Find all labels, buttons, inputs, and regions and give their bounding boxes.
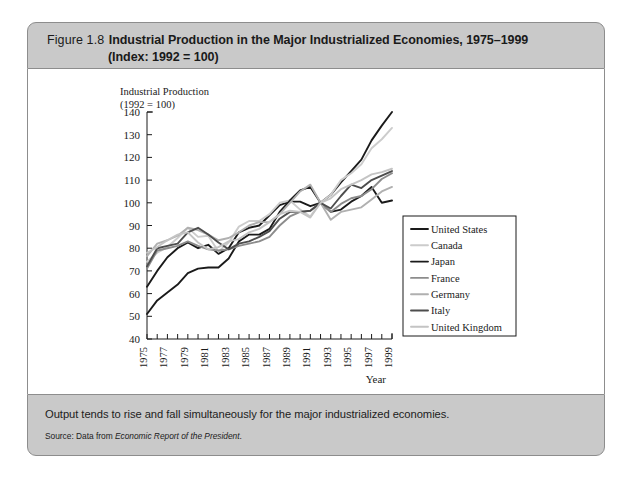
y-axis-title-line1: Industrial Production [120, 86, 210, 97]
legend-label-italy: Italy [431, 305, 451, 316]
y-tick-label: 70 [129, 265, 141, 277]
x-tick-label: 1991 [301, 347, 312, 368]
x-tick-label: 1977 [158, 347, 169, 368]
chart-legend: United StatesCanadaJapanFranceGermanyIta… [403, 216, 516, 336]
x-tick-label: 1981 [199, 347, 210, 368]
legend-label-united-kingdom: United Kingdom [431, 322, 502, 333]
figure-footer-band: Output tends to rise and fall simultaneo… [27, 394, 605, 456]
y-tick-label: 60 [129, 288, 141, 300]
x-tick-label: 1999 [383, 347, 394, 368]
y-tick-label: 110 [124, 174, 141, 186]
axis-frame-path [147, 112, 392, 339]
x-tick-label: 1993 [322, 347, 333, 368]
x-tick-label: 1997 [363, 347, 374, 368]
y-tick-label: 130 [124, 129, 141, 141]
legend-label-germany: Germany [431, 289, 471, 300]
legend-label-canada: Canada [431, 240, 463, 251]
y-tick-label: 50 [129, 310, 141, 322]
legend-label-united-states: United States [431, 224, 487, 235]
figure-source: Source: Data from Economic Report of the… [45, 431, 242, 441]
figure-container: Figure 1.8 Industrial Production in the … [0, 0, 629, 478]
y-tick-label: 80 [129, 242, 141, 254]
y-axis-ticks: 405060708090100110120130140 [124, 106, 153, 345]
x-tick-label: 1983 [220, 347, 231, 368]
data-series-group [147, 112, 392, 314]
y-tick-label: 40 [129, 333, 141, 345]
series-line-japan [147, 187, 392, 314]
x-tick-label: 1987 [261, 347, 272, 368]
x-tick-label: 1985 [240, 347, 251, 368]
x-axis-title: Year [366, 373, 387, 385]
source-suffix: . [240, 431, 242, 441]
series-line-canada [147, 128, 392, 262]
source-title: Economic Report of the President [115, 431, 240, 441]
x-tick-label: 1995 [342, 347, 353, 368]
x-tick-label: 1975 [138, 347, 149, 368]
x-tick-label: 1989 [281, 347, 292, 368]
source-prefix: Source: Data from [45, 431, 115, 441]
legend-label-japan: Japan [431, 256, 456, 267]
legend-label-france: France [431, 273, 460, 284]
x-tick-label: 1979 [179, 347, 190, 368]
y-tick-label: 100 [124, 197, 141, 209]
series-line-italy [147, 171, 392, 266]
axis-lines [147, 112, 392, 339]
series-line-united-kingdom [147, 169, 392, 253]
y-tick-label: 120 [124, 151, 141, 163]
figure-caption: Output tends to rise and fall simultaneo… [45, 408, 449, 420]
y-tick-label: 90 [129, 220, 141, 232]
y-tick-label: 140 [124, 106, 141, 118]
